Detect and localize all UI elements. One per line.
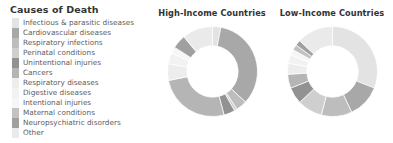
legend-swatch-icon <box>12 48 19 58</box>
chart-high-income: High-Income Countries <box>152 4 272 119</box>
legend-item[interactable]: Cancers <box>6 68 151 78</box>
legend-swatch-icon <box>12 88 19 98</box>
legend: Causes of Death Infectious & parasitic d… <box>6 4 151 138</box>
legend-swatch-icon <box>12 78 19 88</box>
chart-low-income: Low-Income Countries <box>272 4 392 119</box>
legend-item-label: Cancers <box>23 68 53 78</box>
legend-item-label: Infectious & parasitic diseases <box>23 18 134 28</box>
donut-svg <box>285 24 380 119</box>
legend-item-label: Maternal conditions <box>23 108 95 118</box>
legend-item[interactable]: Cardiovascular diseases <box>6 28 151 38</box>
legend-item[interactable]: Intentional injuries <box>6 98 151 108</box>
legend-item-label: Intentional injuries <box>23 98 91 108</box>
legend-swatch-icon <box>12 98 19 108</box>
legend-item[interactable]: Infectious & parasitic diseases <box>6 18 151 28</box>
legend-item-label: Respiratory diseases <box>23 78 99 88</box>
legend-swatch-icon <box>12 38 19 48</box>
figure-root: Causes of Death Infectious & parasitic d… <box>0 0 393 143</box>
legend-item-label: Cardiovascular diseases <box>23 28 111 38</box>
legend-item[interactable]: Neuropsychiatric disorders <box>6 118 151 128</box>
legend-swatch-icon <box>12 108 19 118</box>
donut-svg <box>165 24 260 119</box>
donut-slice[interactable] <box>332 27 377 89</box>
legend-swatch-icon <box>12 58 19 68</box>
legend-item-label: Unintentional injuries <box>23 58 101 68</box>
legend-swatch-icon <box>12 28 19 38</box>
legend-item[interactable]: Respiratory infections <box>6 38 151 48</box>
legend-item[interactable]: Unintentional injuries <box>6 58 151 68</box>
donut-low-income <box>285 24 380 119</box>
legend-swatch-icon <box>12 128 19 138</box>
legend-title: Causes of Death <box>10 4 151 15</box>
legend-swatch-icon <box>12 118 19 128</box>
legend-item-label: Perinatal conditions <box>23 48 95 58</box>
legend-item[interactable]: Maternal conditions <box>6 108 151 118</box>
legend-item[interactable]: Perinatal conditions <box>6 48 151 58</box>
legend-item[interactable]: Digestive diseases <box>6 88 151 98</box>
legend-swatch-icon <box>12 68 19 78</box>
legend-item-label: Digestive diseases <box>23 88 91 98</box>
chart-title-high-income: High-Income Countries <box>152 8 272 18</box>
donut-high-income <box>165 24 260 119</box>
legend-item-label: Neuropsychiatric disorders <box>23 118 121 128</box>
legend-item[interactable]: Other <box>6 128 151 138</box>
legend-swatch-icon <box>12 18 19 28</box>
donut-slice[interactable] <box>168 77 224 117</box>
legend-item-label: Other <box>23 128 44 138</box>
legend-items: Infectious & parasitic diseasesCardiovas… <box>6 18 151 138</box>
legend-item[interactable]: Respiratory diseases <box>6 78 151 88</box>
legend-item-label: Respiratory infections <box>23 38 103 48</box>
donut-slice[interactable] <box>217 27 257 102</box>
chart-title-low-income: Low-Income Countries <box>272 8 392 18</box>
